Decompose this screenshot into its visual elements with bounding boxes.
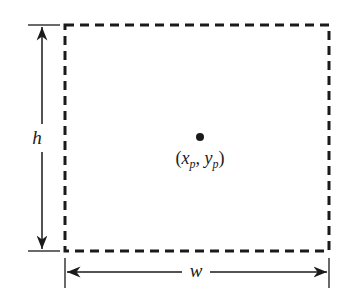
height-label: h bbox=[32, 127, 42, 148]
height-dimension: h bbox=[28, 25, 60, 251]
width-dimension: w bbox=[65, 258, 329, 288]
center-point bbox=[196, 133, 204, 141]
width-label: w bbox=[190, 260, 203, 281]
center-point-label: (xp, yp) bbox=[176, 148, 225, 171]
bounding-box-diagram: h w (xp, yp) bbox=[0, 0, 354, 302]
